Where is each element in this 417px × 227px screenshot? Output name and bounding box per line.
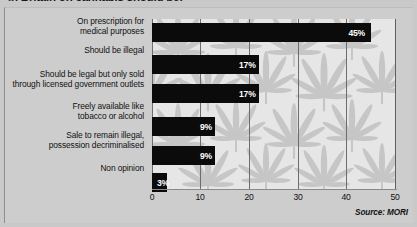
bar-row: 17% <box>152 55 235 74</box>
gridline-30 <box>298 19 299 189</box>
category-label: Sale to remain illegal, possession decri… <box>49 131 144 150</box>
x-tick-label: 20 <box>236 192 262 202</box>
x-tick-label: 30 <box>285 192 311 202</box>
chart-figure: in Britain on cannabis should be: On pre… <box>0 0 417 227</box>
x-tick-label: 50 <box>382 192 408 202</box>
bar-value-label: 9% <box>196 117 215 136</box>
bar-row: 45% <box>152 23 372 42</box>
category-label: Should be illegal <box>84 46 144 56</box>
bar-value-label: 17% <box>235 84 259 103</box>
x-tick-label: 0 <box>139 192 165 202</box>
bar-row: 9% <box>152 146 196 165</box>
category-label: On prescription for medical purposes <box>77 17 144 36</box>
bar-segment <box>152 55 235 74</box>
category-label: Freely available like tobacco or alcohol <box>73 102 144 121</box>
bar-segment <box>152 146 196 165</box>
category-label-column: On prescription for medical purposes Sho… <box>0 14 148 189</box>
x-tick-label: 10 <box>187 192 213 202</box>
gridline-40 <box>346 19 347 189</box>
bar-value-label: 17% <box>235 55 259 74</box>
bar-segment <box>152 23 371 42</box>
category-label: Should be legal but only sold through li… <box>12 70 144 89</box>
chart-title: in Britain on cannabis should be: <box>8 0 408 5</box>
bar-segment <box>152 117 196 136</box>
source-attribution: Source: MORI <box>355 208 408 217</box>
x-axis-line <box>152 189 397 190</box>
bar-value-label: 9% <box>196 146 215 165</box>
bar-value-label: 45% <box>344 23 368 42</box>
x-tick-label: 40 <box>333 192 359 202</box>
category-label: Non opinion <box>100 164 144 174</box>
bar-segment <box>152 84 235 103</box>
bar-row: 17% <box>152 84 235 103</box>
bar-row: 9% <box>152 117 196 136</box>
gridline-20 <box>249 19 250 189</box>
